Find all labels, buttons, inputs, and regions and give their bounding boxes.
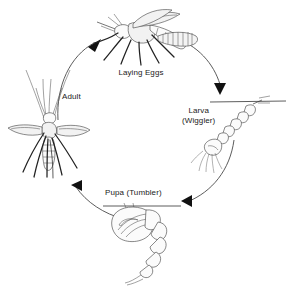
stage-pupa-illustration <box>103 203 181 285</box>
label-pupa: Pupa (Tumbler) <box>105 188 162 198</box>
larva-siphon-tip-1 <box>259 96 270 98</box>
arc-adult-to-laying-eggs <box>58 43 94 120</box>
pupa-paddle-1 <box>125 275 141 283</box>
laying-eggs-leg-1 <box>104 37 123 60</box>
label-laying-eggs: Laying Eggs <box>0 68 286 78</box>
mosquito-life-cycle-diagram: Laying Eggs Adult Larva (Wiggler) Pupa (… <box>0 0 286 297</box>
arrow-pupa-to-adult-head <box>71 180 82 191</box>
arrow-larva-to-pupa-head <box>181 195 192 207</box>
laying-eggs-leg-3 <box>139 42 141 65</box>
larva-water-surface <box>210 101 286 102</box>
laying-eggs-leg-6 <box>94 33 118 43</box>
adult-proboscis-mid <box>49 79 51 116</box>
laying-eggs-leg-2 <box>121 40 131 64</box>
label-adult: Adult <box>62 92 81 102</box>
adult-leg-5 <box>55 134 77 168</box>
label-larva: Larva (Wiggler) <box>182 106 215 126</box>
stage-laying-eggs-illustration <box>94 10 198 65</box>
diagram-canvas <box>0 0 286 297</box>
arrow-laying-eggs-to-larva-head <box>214 83 226 95</box>
larva-thorax <box>204 139 221 155</box>
larva-siphon <box>253 100 262 104</box>
pupa-paddle-2 <box>127 279 143 285</box>
larva-body-segments <box>217 105 255 144</box>
laying-eggs-leg-4 <box>147 40 159 63</box>
adult-wing-left <box>8 125 42 135</box>
stage-adult-illustration <box>8 70 90 178</box>
label-larva-line-1: Larva <box>182 106 215 116</box>
pupa-trumpet-1 <box>124 203 126 208</box>
adult-thorax <box>42 122 57 139</box>
label-larva-line-2: (Wiggler) <box>182 116 215 126</box>
